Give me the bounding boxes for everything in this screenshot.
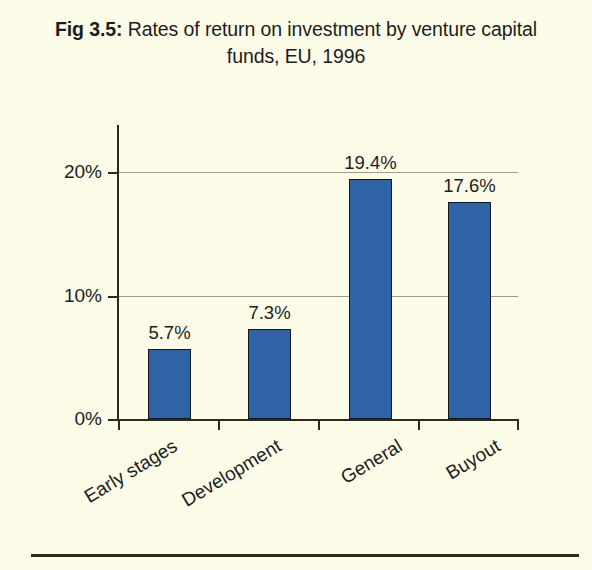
x-tick-mark-3 [418, 421, 420, 430]
figure-panel: Fig 3.5: Rates of return on investment b… [0, 0, 592, 570]
bar-chart: 20% 10% 0% 5.7% 7.3% 19.4% 17.6% Early s… [0, 0, 592, 570]
bar-early-stages[interactable] [148, 349, 191, 419]
bar-general[interactable] [349, 179, 392, 419]
bar-value-label-general: 19.4% [344, 152, 396, 174]
bar-development[interactable] [248, 329, 291, 419]
x-tick-mark-0 [118, 421, 120, 430]
footer-divider [31, 554, 579, 557]
bar-value-label-development: 7.3% [248, 302, 290, 324]
bar-value-label-early-stages: 5.7% [148, 322, 190, 344]
y-tick-label-10: 10% [36, 285, 102, 307]
x-tick-mark-1 [218, 421, 220, 430]
bar-buyout[interactable] [448, 202, 491, 419]
x-tick-mark-2 [318, 421, 320, 430]
y-tick-mark-20 [108, 172, 119, 174]
y-axis-line [117, 125, 119, 421]
x-category-label-general: General [299, 435, 406, 512]
y-tick-label-20: 20% [36, 161, 102, 183]
y-tick-label-0: 0% [36, 408, 102, 430]
y-tick-mark-10 [108, 296, 119, 298]
x-tick-mark-4 [517, 421, 519, 430]
x-category-label-buyout: Buyout [412, 435, 505, 503]
gridline-20 [119, 172, 518, 173]
bar-value-label-buyout: 17.6% [443, 175, 495, 197]
